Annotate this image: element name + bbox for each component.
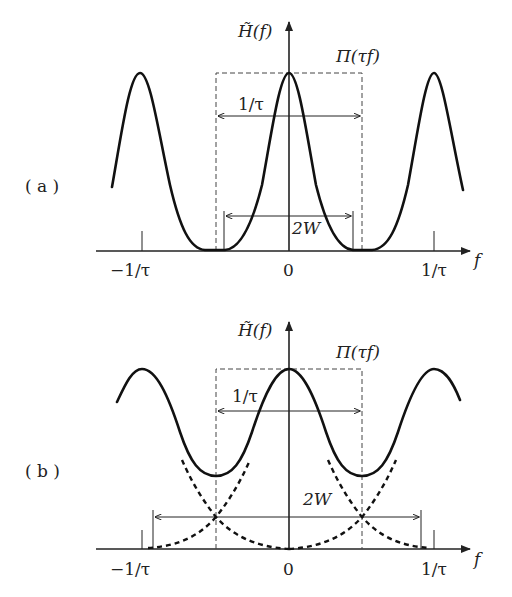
panel-b-label: ( b ): [25, 461, 60, 481]
y-axis-label: H̃(f): [237, 21, 272, 41]
y-axis-label: H̃(f): [237, 320, 272, 340]
tick-label-pos: 1/τ: [421, 559, 447, 579]
panel-b: ( b ) H̃(f) f Π(τf) −1/τ 0 1/τ 1/τ 2W: [25, 320, 483, 579]
panel-a-label: ( a ): [25, 176, 59, 196]
tick-label-neg: −1/τ: [110, 260, 150, 280]
panel-a: ( a ) H̃(f) f Π(τf) −1/τ 0 1/τ 1/τ 2W: [25, 21, 483, 280]
window-label: Π(τf): [335, 46, 380, 66]
window-label: Π(τf): [335, 342, 380, 362]
tick-label-neg: −1/τ: [110, 559, 150, 579]
x-axis-label: f: [472, 250, 483, 270]
figure-canvas: ( a ) H̃(f) f Π(τf) −1/τ 0 1/τ 1/τ 2W ( …: [0, 0, 512, 597]
dim-2w-label: 2W: [302, 489, 333, 509]
spectrum-curve: [112, 73, 463, 250]
replica-left-dashed: [182, 460, 289, 549]
tick-label-zero: 0: [283, 260, 294, 280]
dim-1-over-tau-label: 1/τ: [232, 386, 258, 406]
dim-1-over-tau-label: 1/τ: [238, 94, 264, 114]
tick-label-pos: 1/τ: [421, 260, 447, 280]
dim-2w-label: 2W: [291, 218, 322, 238]
tick-label-zero: 0: [283, 559, 294, 579]
x-axis-label: f: [472, 549, 483, 569]
